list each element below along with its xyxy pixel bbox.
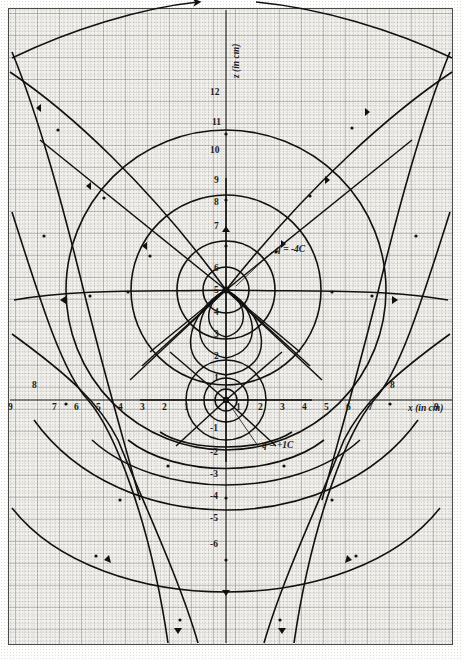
x-tick-plus5: 5 — [324, 403, 329, 413]
field-line-upper-left-2 — [10, 72, 226, 290]
arrow-marker — [345, 555, 352, 563]
positive-charge-marker — [223, 397, 229, 403]
z-axis-label: z (in cm) — [232, 44, 242, 78]
z-tick-6: 6 — [214, 264, 219, 274]
in-neg-sw3 — [130, 290, 226, 380]
z-tick-7: 7 — [214, 222, 219, 232]
z-tick-1: 1 — [214, 374, 219, 384]
z-tick-minus5: -5 — [210, 514, 218, 524]
arrow-marker — [60, 296, 66, 304]
x-tick-plus4: 4 — [302, 403, 307, 413]
figure-page: z (in cm) x (in cm) q = -4C q = +1C 9 8 … — [0, 0, 463, 660]
field-line-upper-right-1 — [256, 2, 452, 58]
arrow-marker — [365, 108, 370, 116]
field-line-upper-left-1 — [12, 2, 198, 58]
negative-charge-marker — [222, 286, 229, 293]
sweep-far-left — [12, 52, 140, 500]
field-line-upper-mid-left — [14, 290, 226, 300]
x-tick-minus4: 4 — [118, 403, 123, 413]
arrow-marker — [174, 628, 182, 634]
x-tick-minus8: 8 — [32, 381, 37, 391]
x-tick-minus1: 1 — [184, 403, 189, 413]
x-tick-minus2: 2 — [162, 403, 167, 413]
arrow-marker — [104, 555, 111, 563]
x-tick-minus6: 6 — [74, 403, 79, 413]
arrow-marker — [222, 590, 230, 596]
z-tick-minus2: -2 — [210, 448, 218, 458]
z-tick-8: 8 — [214, 198, 219, 208]
negative-charge-label: q = -4C — [276, 245, 305, 255]
arrow-marker — [278, 628, 286, 634]
x-tick-plus3: 3 — [280, 403, 285, 413]
out-pos-ne — [226, 352, 282, 400]
x-tick-plus9: 9 — [434, 403, 439, 413]
negative-charge-leader — [236, 252, 272, 286]
field-line-upper-right-2 — [226, 72, 452, 290]
z-tick-9: 9 — [214, 176, 219, 186]
x-tick-plus2: 2 — [258, 403, 263, 413]
field-line-upper-mid-right — [226, 290, 448, 300]
z-tick-5: 5 — [214, 286, 219, 296]
arrow-marker — [86, 182, 91, 190]
z-tick-4: 4 — [214, 308, 219, 318]
x-tick-plus8: 8 — [390, 381, 395, 391]
arrow-marker — [36, 104, 41, 112]
x-tick-plus1: 1 — [236, 403, 241, 413]
z-tick-12: 12 — [210, 88, 220, 98]
z-tick-minus4: -4 — [210, 492, 218, 502]
x-tick-minus7: 7 — [52, 403, 57, 413]
arrow-marker — [325, 176, 330, 184]
z-tick-11: 11 — [212, 118, 221, 128]
x-tick-minus5: 5 — [96, 403, 101, 413]
in-neg-sw1 — [150, 290, 226, 352]
x-tick-minus3: 3 — [140, 403, 145, 413]
field-lines-into-negative — [40, 140, 412, 400]
z-tick-minus3: -3 — [210, 470, 218, 480]
positive-charge-leader — [232, 408, 258, 446]
arrow-marker — [222, 226, 230, 232]
x-tick-plus7: 7 — [368, 403, 373, 413]
x-tick-plus6: 6 — [346, 403, 351, 413]
arrow-marker — [392, 296, 398, 304]
z-tick-minus6: -6 — [210, 540, 218, 550]
axes — [10, 10, 452, 643]
positive-charge-label: q = +1C — [262, 441, 293, 451]
z-tick-3: 3 — [214, 330, 219, 340]
sweep-right-outer — [294, 212, 450, 643]
sweep-left-inner — [12, 334, 198, 643]
sweep-right-inner — [264, 334, 450, 643]
z-tick-minus1: -1 — [210, 424, 218, 434]
z-tick-2: 2 — [214, 352, 219, 362]
in-neg-se3 — [226, 290, 322, 380]
x-tick-minus9: 9 — [8, 403, 13, 413]
field-diagram-canvas — [0, 0, 463, 660]
z-tick-10: 10 — [210, 146, 220, 156]
